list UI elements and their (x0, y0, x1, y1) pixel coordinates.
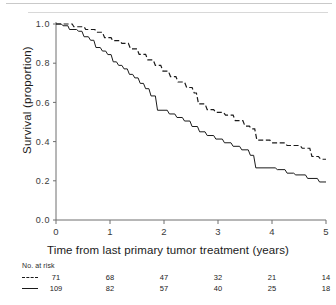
risk-table: No. at risk 716847322114 1098257402518 (0, 262, 336, 302)
svg-text:1.0: 1.0 (36, 19, 50, 29)
x-axis-title: Time from last primary tumor treatment (… (0, 244, 336, 256)
risk-count: 32 (206, 273, 230, 282)
svg-text:4: 4 (269, 226, 274, 237)
risk-count: 82 (98, 284, 122, 293)
survival-curve-figure: 0.00.20.40.60.81.0012345 Survival (propo… (0, 0, 336, 305)
risk-count: 109 (44, 284, 68, 293)
risk-count: 47 (152, 273, 176, 282)
risk-count: 18 (314, 284, 336, 293)
risk-count: 25 (260, 284, 284, 293)
svg-text:0.2: 0.2 (36, 176, 50, 186)
y-axis-title: Survival (proportion) (21, 10, 33, 190)
curve-dashed-group (56, 24, 326, 159)
risk-count: 57 (152, 284, 176, 293)
risk-count: 21 (260, 273, 284, 282)
svg-text:0.4: 0.4 (36, 137, 50, 147)
kaplan-meier-plot: 0.00.20.40.60.81.0012345 (0, 14, 336, 246)
legend-dashed-line (22, 277, 38, 278)
risk-table-title: No. at risk (22, 262, 55, 269)
svg-text:5: 5 (323, 226, 328, 237)
svg-text:2: 2 (161, 226, 166, 237)
curve-solid-group (56, 24, 326, 182)
legend-solid-line (22, 288, 38, 289)
risk-count: 40 (206, 284, 230, 293)
risk-count: 71 (44, 273, 68, 282)
risk-count: 14 (314, 273, 336, 282)
svg-text:0.6: 0.6 (36, 98, 50, 108)
risk-row-dashed: 716847322114 (0, 272, 336, 283)
risk-count: 68 (98, 273, 122, 282)
plot-area: 0.00.20.40.60.81.0012345 (0, 14, 336, 246)
svg-text:0.8: 0.8 (36, 58, 50, 68)
top-divider-secondary (28, 12, 328, 13)
svg-text:0: 0 (53, 226, 58, 237)
svg-text:3: 3 (215, 226, 220, 237)
svg-text:0.0: 0.0 (36, 215, 50, 225)
risk-row-solid: 1098257402518 (0, 283, 336, 294)
top-divider (6, 3, 332, 4)
svg-text:1: 1 (107, 226, 112, 237)
